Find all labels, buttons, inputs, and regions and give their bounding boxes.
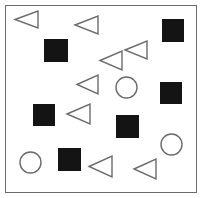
triangle-6 [99, 50, 123, 71]
triangle-glyph [15, 11, 38, 28]
square-glyph [163, 20, 184, 42]
triangle-glyph [77, 75, 98, 94]
square-9 [160, 82, 182, 104]
circle-8 [115, 76, 138, 99]
triangle-glyph [100, 51, 122, 70]
circle-glyph [116, 77, 137, 98]
square-glyph [45, 40, 68, 62]
square-glyph [34, 105, 55, 126]
triangle-16 [88, 155, 113, 178]
triangle-glyph [67, 104, 90, 124]
circle-glyph [161, 134, 182, 155]
triangle-17 [133, 158, 157, 180]
triangle-2 [74, 15, 99, 35]
triangle-7 [76, 74, 99, 95]
square-4 [44, 39, 68, 62]
triangle-glyph [125, 41, 147, 59]
square-glyph [59, 149, 81, 171]
circle-glyph [20, 152, 41, 173]
triangle-glyph [89, 156, 112, 177]
stimulus-canvas [0, 0, 202, 198]
square-12 [116, 115, 139, 138]
square-10 [33, 104, 55, 126]
circle-13 [160, 133, 183, 156]
square-glyph [117, 116, 139, 138]
circle-15 [19, 151, 42, 174]
triangle-glyph [75, 16, 98, 34]
triangle-5 [124, 40, 148, 60]
square-glyph [161, 83, 182, 104]
square-3 [162, 19, 184, 42]
triangle-1 [14, 10, 39, 29]
triangle-11 [66, 103, 91, 125]
triangle-glyph [134, 159, 156, 179]
square-14 [58, 148, 81, 171]
